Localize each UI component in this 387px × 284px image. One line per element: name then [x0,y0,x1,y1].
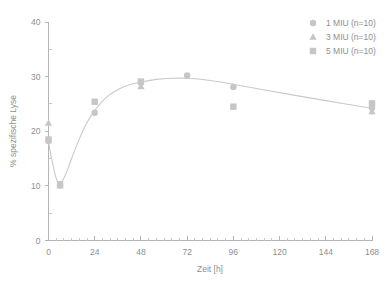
y-tick-label: 30 [31,72,41,82]
data-point [138,78,144,84]
x-tick-label: 48 [136,247,146,257]
x-tick-label: 168 [365,247,379,257]
y-tick-label: 10 [31,181,41,191]
data-point [92,109,98,115]
x-tick-label: 120 [272,247,286,257]
x-axis-title: Zeit [h] [197,264,223,274]
x-tick-label: 72 [182,247,192,257]
data-point [45,136,51,142]
data-point [184,72,190,78]
scatter-plot: 010203040 024487296120144168 Zeit [h] % … [0,0,387,284]
axes-group [49,22,373,241]
chart-container: 010203040 024487296120144168 Zeit [h] % … [0,0,387,284]
legend-marker-circle-icon [310,20,316,26]
legend-marker-square-icon [310,48,316,54]
x-tick-label: 144 [319,247,333,257]
y-axis-title: % spezifische Lyse [8,95,18,167]
data-markers-group [45,72,376,188]
x-tick-label: 96 [229,247,239,257]
legend-item-1[interactable]: 1 MIU (n=10) [310,18,376,28]
y-axis-tick-labels: 010203040 [31,17,41,246]
y-tick-label: 40 [31,17,41,27]
legend-item-2[interactable]: 3 MIU (n=10) [309,32,376,42]
legend-item-3[interactable]: 5 MIU (n=10) [310,46,376,56]
legend-label: 5 MIU (n=10) [326,46,376,56]
y-tick-label: 20 [31,126,41,136]
data-point [230,84,236,90]
series-3 [45,78,375,187]
x-axis-ticks [49,236,373,241]
legend: 1 MIU (n=10)3 MIU (n=10)5 MIU (n=10) [309,18,376,56]
data-point [230,103,236,109]
x-axis-tick-labels: 024487296120144168 [46,247,379,257]
y-tick-label: 0 [36,236,41,246]
data-point [57,181,63,187]
error-bars-group [141,79,372,115]
fit-curve [49,78,373,184]
data-point [92,99,98,105]
legend-marker-triangle-icon [309,33,316,39]
data-point [369,100,375,106]
legend-label: 1 MIU (n=10) [326,18,376,28]
series-1 [45,72,375,188]
data-point [45,119,52,125]
x-tick-label: 0 [46,247,51,257]
legend-label: 3 MIU (n=10) [326,32,376,42]
x-tick-label: 24 [90,247,100,257]
